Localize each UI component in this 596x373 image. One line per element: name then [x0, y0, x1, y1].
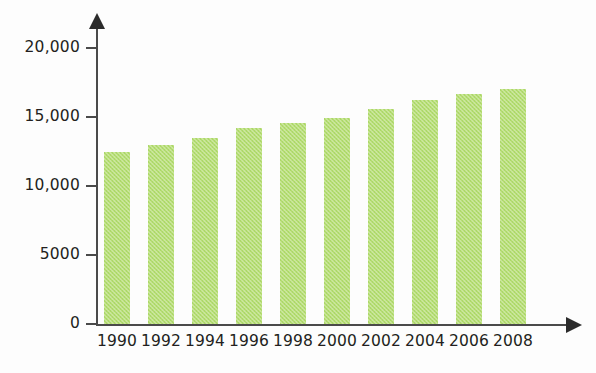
y-axis-tick-label: 20,000: [0, 38, 80, 56]
y-axis-tick-label: 15,000: [0, 107, 80, 125]
y-axis-tick: [86, 47, 97, 49]
y-axis-tick: [86, 116, 97, 118]
x-axis-tick-label: 1998: [271, 332, 315, 350]
y-axis-tick-label: 0: [0, 314, 80, 332]
y-axis-tick-label: 10,000: [0, 176, 80, 194]
bar-2000: [324, 118, 350, 324]
arrow-up-icon: [89, 13, 105, 29]
x-axis-tick-label: 2002: [359, 332, 403, 350]
bar-2006: [456, 94, 482, 324]
bar-1992: [148, 145, 174, 324]
bar-chart: 0500010,00015,00020,000 1990199219941996…: [0, 0, 596, 373]
x-axis-tick-label: 2004: [403, 332, 447, 350]
x-axis-tick-label: 2008: [491, 332, 535, 350]
x-axis-tick-label: 1990: [95, 332, 139, 350]
x-axis-tick-label: 1992: [139, 332, 183, 350]
arrow-right-icon: [566, 317, 582, 333]
bar-1994: [192, 138, 218, 324]
y-axis-tick: [86, 185, 97, 187]
bar-1998: [280, 123, 306, 324]
y-axis-tick: [86, 254, 97, 256]
y-axis-tick: [86, 323, 97, 325]
y-axis-tick-label: 5000: [0, 245, 80, 263]
x-axis-line: [96, 324, 568, 326]
x-axis-tick-label: 2000: [315, 332, 359, 350]
bar-1990: [104, 152, 130, 325]
x-axis-tick-label: 1994: [183, 332, 227, 350]
bar-2004: [412, 100, 438, 324]
x-axis-tick-label: 1996: [227, 332, 271, 350]
bar-1996: [236, 128, 262, 324]
bar-2008: [500, 89, 526, 324]
x-axis-tick-label: 2006: [447, 332, 491, 350]
bar-2002: [368, 109, 394, 324]
y-axis-line: [96, 26, 98, 325]
